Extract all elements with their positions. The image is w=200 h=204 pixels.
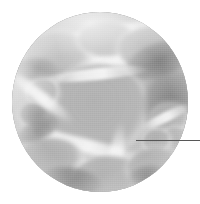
micrograph-image [12, 12, 188, 192]
figure-root [0, 0, 200, 204]
film-grain [12, 12, 188, 192]
annotation-leader-line [136, 140, 200, 141]
